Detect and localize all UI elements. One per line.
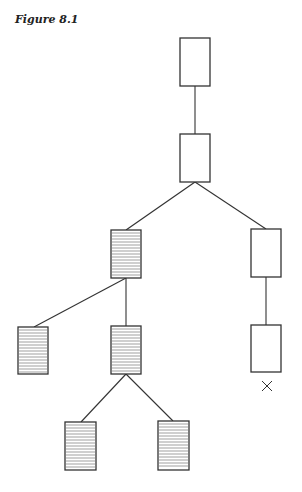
tree-node-n3-right: [251, 229, 281, 277]
empty-box: [180, 38, 210, 86]
tree-edge: [126, 182, 195, 230]
tree-edges: [34, 86, 266, 422]
tree-nodes: [18, 38, 281, 470]
tree-diagram: [0, 0, 302, 492]
tree-edge: [195, 182, 266, 229]
empty-box: [251, 229, 281, 277]
tree-node-n2: [180, 134, 210, 182]
tree-node-n4-right: [251, 325, 281, 372]
tree-node-n4-mid: [111, 326, 141, 374]
tree-node-n5-right: [158, 421, 189, 470]
tree-node-n5-left: [65, 422, 96, 470]
tree-edge: [34, 278, 126, 327]
tree-edge: [81, 374, 126, 422]
tree-node-n3-left: [111, 230, 141, 278]
cross-mark-icon: [262, 381, 272, 391]
tree-node-n4-leftleft: [18, 327, 48, 374]
tree-edge: [126, 374, 173, 421]
empty-box: [180, 134, 210, 182]
empty-box: [251, 325, 281, 372]
tree-markers: [262, 381, 272, 391]
tree-node-root: [180, 38, 210, 86]
hatched-box: [18, 327, 48, 374]
